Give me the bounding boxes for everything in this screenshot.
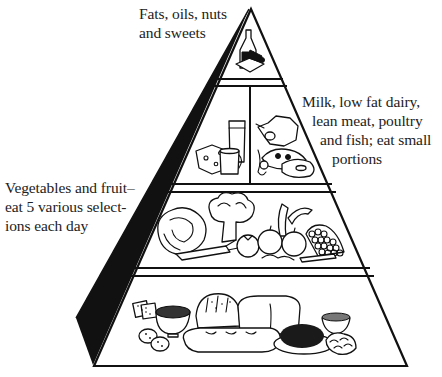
tier-2-label-line: portions [302, 149, 431, 168]
tier-3-label-line: eat 5 various select- [5, 197, 135, 216]
tier-2-label: Milk, low fat dairy, lean meat, poultry … [302, 92, 431, 168]
tier-3-label-line: ions each day [5, 216, 135, 235]
baguette-icon [183, 328, 280, 352]
tier-1-label-line: and sweets [139, 23, 227, 42]
tier-2-label-line: and fish; eat small [302, 130, 431, 149]
tier-2-label-line: lean meat, poultry [302, 111, 431, 130]
tier-1-label: Fats, oils, nuts and sweets [139, 4, 227, 42]
bread-loaf-icon [196, 294, 240, 328]
cabbage-icon [158, 208, 206, 254]
cup-icon [220, 149, 242, 175]
tomato-icon [237, 235, 259, 257]
tier-1-label-line: Fats, oils, nuts [139, 4, 227, 23]
tier-2-label-line: Milk, low fat dairy, [302, 92, 431, 111]
crackers-icon [133, 301, 157, 319]
tier-3-label-line: Vegetables and fruit– [5, 178, 135, 197]
tier-3-label: Vegetables and fruit– eat 5 various sele… [5, 178, 135, 235]
